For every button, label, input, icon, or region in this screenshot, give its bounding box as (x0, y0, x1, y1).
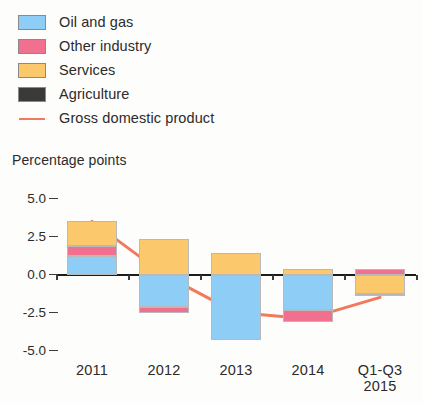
bar-segment (139, 275, 189, 307)
bar-segment (67, 246, 117, 256)
y-axis-tick-mark (49, 274, 58, 276)
x-axis-tick-label: 2013 (200, 362, 272, 378)
x-axis-tick-label-line: 2011 (56, 362, 128, 378)
bar-segment (139, 307, 189, 314)
legend-swatch-other-industry-icon (18, 39, 46, 54)
y-axis-tick-label: 5.0 (6, 191, 46, 206)
x-axis-tick-label-line: 2013 (200, 362, 272, 378)
x-axis-tick-mark (200, 275, 202, 280)
legend-item-other-industry: Other industry (18, 34, 214, 58)
legend-item-oil-and-gas: Oil and gas (18, 10, 214, 34)
gdp-line (92, 221, 380, 318)
chart-legend: Oil and gas Other industry Services Agri… (18, 10, 214, 130)
x-axis-tick-mark (56, 275, 58, 280)
bar-segment (283, 269, 333, 274)
legend-line-gross-domestic-product-icon (18, 111, 46, 126)
x-axis-tick-mark (128, 275, 130, 280)
x-axis-tick-label-line: Q1-Q3 (344, 362, 416, 378)
legend-label-services: Services (59, 63, 115, 78)
y-axis-tick-label: -5.0 (6, 343, 46, 358)
bar-segment (67, 221, 117, 246)
y-axis-tick-mark (49, 198, 58, 200)
y-axis-tick-mark (49, 312, 58, 314)
legend-label-agriculture: Agriculture (59, 87, 129, 102)
y-axis-tick-label: 0.0 (6, 267, 46, 282)
legend-swatch-oil-and-gas-icon (18, 15, 46, 30)
legend-item-agriculture: Agriculture (18, 82, 214, 106)
legend-item-gross-domestic-product: Gross domestic product (18, 106, 214, 130)
x-axis-tick-label-line: 2014 (272, 362, 344, 378)
y-axis-tick-label: -2.5 (6, 305, 46, 320)
zero-axis-line (56, 274, 416, 276)
x-axis-tick-label-line: 2012 (128, 362, 200, 378)
x-axis-tick-label-line: 2015 (344, 378, 416, 394)
y-axis-tick-mark (49, 350, 58, 352)
bar-segment (211, 275, 261, 340)
bar-segment (283, 310, 333, 321)
x-axis-tick-mark (272, 275, 274, 280)
bar-segment (283, 275, 333, 311)
legend-label-gross-domestic-product: Gross domestic product (59, 111, 214, 126)
x-axis-tick-label: 2014 (272, 362, 344, 378)
y-axis-title: Percentage points (12, 152, 127, 168)
legend-label-other-industry: Other industry (59, 39, 151, 54)
legend-item-services: Services (18, 58, 214, 82)
y-axis-tick-mark (49, 236, 58, 238)
bar-segment (355, 269, 405, 275)
legend-swatch-agriculture-icon (18, 87, 46, 102)
bar-segment (211, 253, 261, 275)
bar-segment (355, 294, 405, 296)
x-axis-tick-label: Q1-Q32015 (344, 362, 416, 394)
x-axis-tick-label: 2012 (128, 362, 200, 378)
y-axis-tick-label: 2.5 (6, 229, 46, 244)
legend-label-oil-and-gas: Oil and gas (59, 15, 133, 30)
x-axis-tick-label: 2011 (56, 362, 128, 378)
legend-swatch-services-icon (18, 63, 46, 78)
bar-segment (139, 239, 189, 275)
bar-segment (67, 256, 117, 274)
x-axis-tick-mark (344, 275, 346, 280)
x-axis-tick-mark (416, 275, 418, 280)
bar-segment (355, 275, 405, 295)
